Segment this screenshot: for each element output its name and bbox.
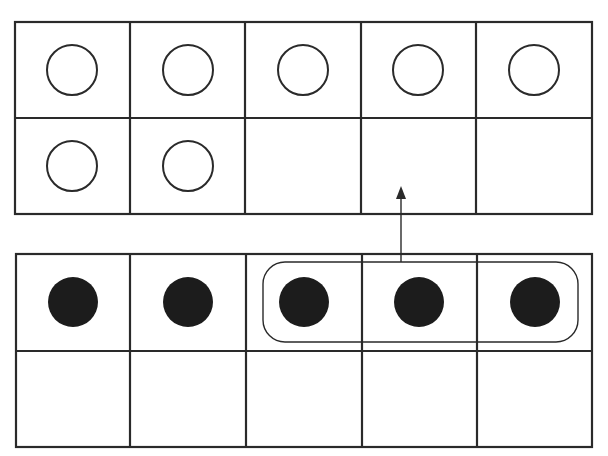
ten-frame-diagram: [0, 0, 608, 456]
open-circle-counter: [278, 45, 328, 95]
open-circle-counter: [47, 141, 97, 191]
filled-dot-counter: [279, 277, 329, 327]
top-ten-frame: [15, 22, 592, 214]
filled-dot-counter: [510, 277, 560, 327]
open-circle-counter: [163, 45, 213, 95]
filled-dot-counter: [163, 277, 213, 327]
open-circle-counter: [509, 45, 559, 95]
filled-dot-counter: [394, 277, 444, 327]
open-circle-counter: [163, 141, 213, 191]
open-circle-counter: [393, 45, 443, 95]
bottom-frame-counters: [48, 277, 560, 327]
open-circle-counter: [47, 45, 97, 95]
arrow-icon: [396, 186, 406, 262]
filled-dot-counter: [48, 277, 98, 327]
